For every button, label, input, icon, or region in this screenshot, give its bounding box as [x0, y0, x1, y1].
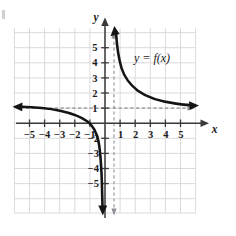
function-graph-plot: −5 −4 −3 −2 −1 1 2 3 4 5 5 4 3 2 1 −2 −3… [0, 0, 236, 236]
x-tick-label-4: 4 [163, 129, 169, 140]
graph-figure: −5 −4 −3 −2 −1 1 2 3 4 5 5 4 3 2 1 −2 −3… [0, 0, 236, 236]
y-tick-label--3: −3 [88, 148, 99, 159]
x-tick-label--3: −3 [54, 129, 65, 140]
y-axis-label: y [91, 11, 99, 24]
y-tick-label-2: 2 [92, 88, 97, 99]
y-tick-label-3: 3 [92, 73, 97, 84]
x-tick-label--4: −4 [39, 129, 51, 140]
x-tick-label--2: −2 [69, 129, 80, 140]
corner-mark [2, 10, 5, 19]
y-tick-label-4: 4 [92, 57, 98, 68]
x-tick-label-5: 5 [178, 129, 183, 140]
y-tick-label-5: 5 [92, 42, 97, 53]
x-axis-label: x [211, 123, 218, 135]
figure-background [0, 0, 236, 236]
y-tick-label--5: −5 [88, 178, 99, 189]
y-tick-label--4: −4 [88, 163, 100, 174]
curve-equation-label: y = f(x) [133, 51, 170, 65]
y-tick-label-1: 1 [92, 103, 97, 114]
x-tick-label-1: 1 [118, 129, 123, 140]
x-tick-label-2: 2 [133, 129, 138, 140]
x-tick-label--5: −5 [24, 129, 35, 140]
x-tick-label-3: 3 [148, 129, 153, 140]
